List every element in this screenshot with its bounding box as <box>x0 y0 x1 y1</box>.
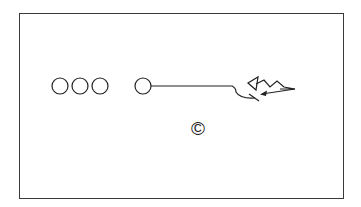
arrow-line <box>262 89 295 94</box>
route-line <box>151 86 255 98</box>
play-diagram <box>0 0 361 207</box>
block-marker-icon <box>249 94 259 101</box>
arrow-head-icon <box>260 91 267 97</box>
player-circle-1 <box>52 78 68 94</box>
copyright-symbol: © <box>186 117 210 141</box>
player-circle-4 <box>135 78 151 94</box>
zigzag-motion-icon <box>256 80 295 89</box>
player-circle-3 <box>92 78 108 94</box>
player-circle-2 <box>72 78 88 94</box>
